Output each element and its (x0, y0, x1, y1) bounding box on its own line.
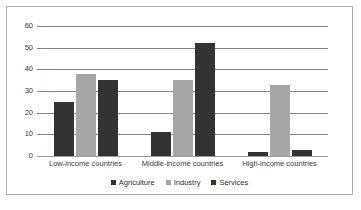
bars-layer (37, 26, 328, 156)
bar-industry[interactable] (173, 80, 193, 156)
bar-group (134, 26, 231, 156)
category-axis: Low-income countriesMiddle-income countr… (37, 160, 328, 174)
category-label: Middle-income countries (142, 160, 223, 168)
y-axis-tick-label: 0 (29, 152, 33, 160)
bar-services[interactable] (292, 150, 312, 157)
y-axis-tick-label: 40 (25, 66, 33, 74)
y-axis-tick-label: 10 (25, 131, 33, 139)
bar-services[interactable] (98, 80, 118, 156)
bar-agriculture[interactable] (54, 102, 74, 156)
legend-swatch-icon (211, 180, 216, 185)
bar-agriculture[interactable] (151, 132, 171, 156)
category-label: High-income countries (242, 160, 317, 168)
y-axis-tick-label: 20 (25, 109, 33, 117)
legend-swatch-icon (111, 180, 116, 185)
legend-label: Industry (174, 179, 201, 187)
bar-agriculture[interactable] (248, 152, 268, 156)
bar-group (37, 26, 134, 156)
bar-services[interactable] (195, 43, 215, 156)
chart-legend: AgricultureIndustryServices (7, 179, 352, 187)
y-axis-tick-label: 50 (25, 44, 33, 52)
legend-swatch-icon (166, 180, 171, 185)
legend-label: Services (219, 179, 248, 187)
bar-industry[interactable] (76, 74, 96, 156)
legend-item-services[interactable]: Services (211, 179, 248, 187)
chart-frame: 0102030405060 Low-income countriesMiddle… (6, 6, 353, 195)
bar-industry[interactable] (270, 85, 290, 157)
axis-baseline: 0 (37, 156, 328, 157)
legend-label: Agriculture (119, 179, 155, 187)
bar-group (231, 26, 328, 156)
y-axis-tick-label: 30 (25, 87, 33, 95)
legend-item-industry[interactable]: Industry (166, 179, 201, 187)
legend-item-agriculture[interactable]: Agriculture (111, 179, 155, 187)
category-label: Low-income countries (49, 160, 122, 168)
chart-canvas: 0102030405060 Low-income countriesMiddle… (7, 7, 352, 194)
y-axis-tick-label: 60 (25, 22, 33, 30)
